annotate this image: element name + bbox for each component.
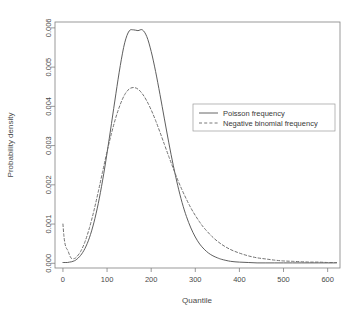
x-tick-label: 600 xyxy=(321,275,334,284)
plot-background xyxy=(0,0,351,324)
y-tick-label: 0.006 xyxy=(44,18,53,37)
x-axis-title: Quantile xyxy=(182,296,212,305)
y-tick-label: 0.002 xyxy=(44,175,53,194)
x-tick-label: 300 xyxy=(189,275,202,284)
legend-label-negative-binomial: Negative binomial frequency xyxy=(223,119,318,128)
y-tick-label: 0.003 xyxy=(44,136,53,155)
y-tick-label: 0.001 xyxy=(44,215,53,234)
y-tick-label: 0.004 xyxy=(44,97,53,116)
probability-density-plot: 0.0000.0010.0020.0030.0040.0050.006 0100… xyxy=(0,0,351,324)
legend-label-poisson: Poisson frequency xyxy=(223,109,285,118)
x-tick-label: 0 xyxy=(61,275,65,284)
y-tick-label: 0.005 xyxy=(44,58,53,77)
x-tick-label: 200 xyxy=(145,275,158,284)
x-tick-label: 400 xyxy=(233,275,246,284)
y-axis-title: Probability density xyxy=(6,113,15,178)
chart-legend: Poisson frequency Negative binomial freq… xyxy=(193,104,335,131)
x-tick-label: 500 xyxy=(277,275,290,284)
chart-container: 0.0000.0010.0020.0030.0040.0050.006 0100… xyxy=(0,0,351,324)
y-tick-label: 0.000 xyxy=(44,254,53,273)
x-tick-label: 100 xyxy=(101,275,114,284)
